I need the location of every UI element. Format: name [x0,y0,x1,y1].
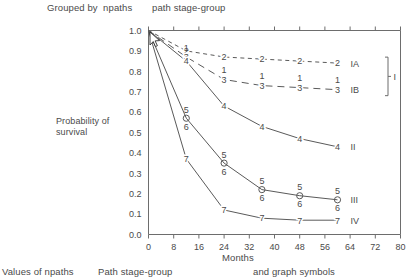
series-label-ib: IB [351,85,360,95]
x-tick-label: 24 [219,242,229,252]
point-symbol-above: 1 [222,65,227,75]
point-symbol: 4 [259,122,264,132]
y-tick-label: 0.9 [129,46,142,56]
x-tick-label: 8 [171,242,176,252]
y-tick-label: 0.8 [129,67,142,77]
point-symbol: 2 [259,54,264,64]
point-symbol-above: 1 [184,43,189,53]
series-label-iii: III [351,195,359,205]
mouse-cursor-icon [150,32,160,47]
point-symbol: 4 [184,56,189,66]
point-symbol: 4 [222,101,227,111]
point-symbol: 7 [297,216,302,226]
point-symbol: 2 [222,52,227,62]
point-symbol-above: 5 [259,176,264,186]
point-symbol-below: 6 [259,193,264,203]
point-symbol: 2 [335,58,340,68]
curve-ib [149,31,338,90]
point-symbol: 7 [259,213,264,223]
point-symbol: 3 [297,83,302,93]
point-symbol: 4 [335,142,340,152]
x-tick-label: 80 [395,242,405,252]
x-tick-label: 32 [244,242,254,252]
x-tick-label: 0 [146,242,151,252]
y-tick-label: 0.1 [129,209,142,219]
survival-curves [149,31,338,221]
x-tick-label: 72 [370,242,380,252]
point-symbol: 7 [222,205,227,215]
point-symbol-below: 6 [297,199,302,209]
y-axis-ticks: 0.00.10.20.30.40.50.60.70.80.91.0 [129,26,142,240]
y-tick-label: 0.5 [129,128,142,138]
group-bracket: I [385,57,396,96]
x-tick-label: 64 [345,242,355,252]
point-symbol-below: 6 [335,203,340,213]
point-symbol-above: 5 [297,182,302,192]
point-symbol: 2 [297,56,302,66]
y-tick-label: 0.0 [129,230,142,240]
y-tick-label: 0.7 [129,87,142,97]
y-tick-label: 0.3 [129,169,142,179]
series-label-ii: II [351,142,356,152]
point-symbol: 3 [259,81,264,91]
point-symbol: 7 [184,154,189,164]
y-tick-label: 0.6 [129,107,142,117]
point-symbol: 3 [335,85,340,95]
survival-plot: 08162432404856647280 0.00.10.20.30.40.50… [0,0,411,280]
y-tick-label: 0.2 [129,189,142,199]
x-tick-label: 16 [194,242,204,252]
point-symbol-above: 1 [335,75,340,85]
chart-page: Grouped by npaths path stage-group Proba… [0,0,411,280]
point-symbol-below: 6 [222,167,227,177]
point-symbol-below: 6 [184,122,189,132]
curve-ii [149,31,338,147]
x-tick-label: 56 [320,242,330,252]
point-symbol-above: 5 [222,150,227,160]
series-label-iv: IV [351,216,360,226]
curve-iii [149,31,338,200]
curve-iv [149,31,338,221]
point-symbol: 7 [335,216,340,226]
point-symbol: 4 [297,134,302,144]
legend-labels: IAIBIIIIIIV [351,59,360,226]
y-tick-label: 1.0 [129,26,142,36]
point-symbol-above: 1 [259,71,264,81]
point-symbol-above: 5 [184,105,189,115]
point-symbol-above: 1 [297,73,302,83]
point-symbol: 3 [222,75,227,85]
point-symbol-above: 5 [335,186,340,196]
bracket-group-label: I [394,72,397,82]
x-tick-label: 48 [295,242,305,252]
x-tick-label: 40 [269,242,279,252]
series-label-ia: IA [351,59,360,69]
curve-ia [149,31,338,64]
y-tick-label: 0.4 [129,148,142,158]
